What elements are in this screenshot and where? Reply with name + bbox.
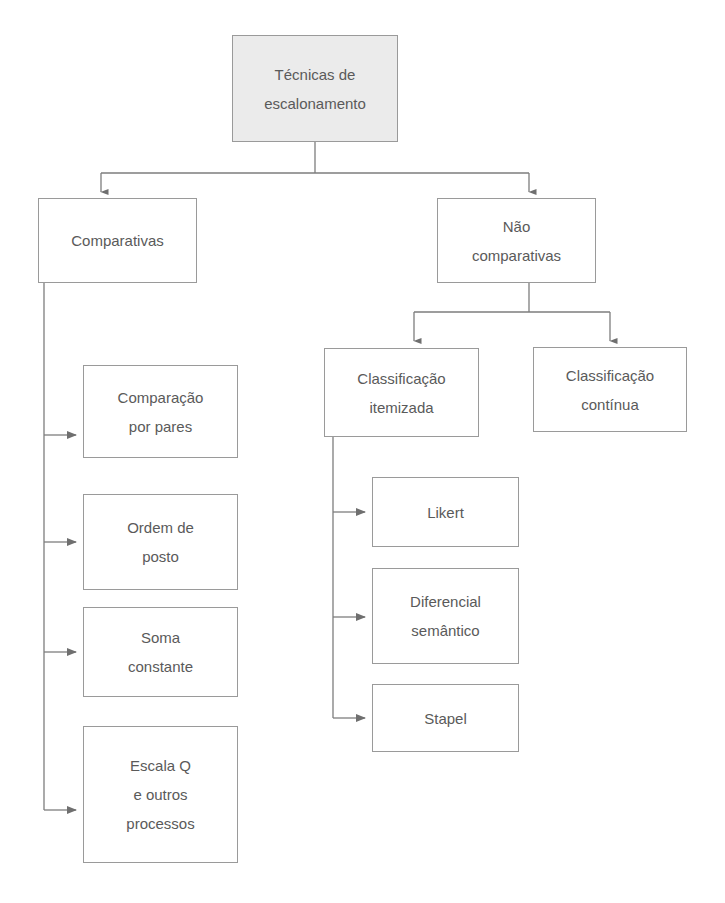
node-label-line: constante	[128, 659, 193, 674]
node-label-line: itemizada	[369, 400, 433, 415]
node-ordem-de-posto[interactable]: Ordem de posto	[83, 494, 238, 590]
node-label-line: comparativas	[472, 248, 561, 263]
node-label-line: Não	[503, 219, 531, 234]
node-label-line: por pares	[129, 419, 192, 434]
node-label-line: Likert	[427, 505, 464, 520]
node-stapel[interactable]: Stapel	[372, 684, 519, 752]
node-label-line: Soma	[141, 630, 180, 645]
node-label-line: Escala Q	[130, 758, 191, 773]
node-label-line: e outros	[133, 787, 187, 802]
node-escala-q-e-outros-processos[interactable]: Escala Q e outros processos	[83, 726, 238, 863]
node-label-line: Técnicas de	[275, 67, 356, 82]
node-label-line: Comparação	[118, 390, 204, 405]
node-likert[interactable]: Likert	[372, 477, 519, 547]
node-soma-constante[interactable]: Soma constante	[83, 607, 238, 697]
node-comparativas[interactable]: Comparativas	[38, 198, 197, 283]
node-label-line: escalonamento	[264, 96, 366, 111]
node-label-line: posto	[142, 549, 179, 564]
node-tecnicas-de-escalonamento[interactable]: Técnicas de escalonamento	[232, 35, 398, 142]
node-nao-comparativas[interactable]: Não comparativas	[437, 198, 596, 283]
scaling-techniques-diagram: Técnicas de escalonamento Comparativas N…	[0, 0, 725, 903]
node-comparacao-por-pares[interactable]: Comparação por pares	[83, 365, 238, 458]
node-label-line: contínua	[581, 397, 639, 412]
node-label-line: Ordem de	[127, 520, 194, 535]
node-label-line: processos	[126, 816, 194, 831]
node-label-line: Classificação	[357, 371, 445, 386]
node-diferencial-semantico[interactable]: Diferencial semântico	[372, 568, 519, 664]
node-label-line: Comparativas	[71, 233, 164, 248]
node-label-line: semântico	[411, 623, 479, 638]
node-classificacao-continua[interactable]: Classificação contínua	[533, 347, 687, 432]
node-label-line: Diferencial	[410, 594, 481, 609]
node-label-line: Stapel	[424, 711, 467, 726]
node-classificacao-itemizada[interactable]: Classificação itemizada	[324, 348, 479, 437]
node-label-line: Classificação	[566, 368, 654, 383]
